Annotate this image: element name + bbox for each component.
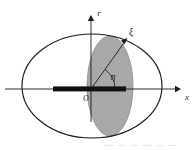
coordinate-diagram: r x O ξ η [0,0,196,150]
crack-bar [53,86,126,91]
cropped-caption: — — — — — — [105,140,193,148]
inner-shaded-ellipse [87,36,133,136]
x-axis-label: x [184,92,189,102]
origin-label: O [83,94,89,103]
eta-label: η [111,72,116,82]
r-axis-label: r [97,8,101,18]
r-axis-arrowhead [88,15,94,21]
x-axis-arrowhead [175,86,181,92]
xi-label: ξ [129,27,134,38]
figure-container: r x O ξ η — — — — — — [0,0,196,150]
